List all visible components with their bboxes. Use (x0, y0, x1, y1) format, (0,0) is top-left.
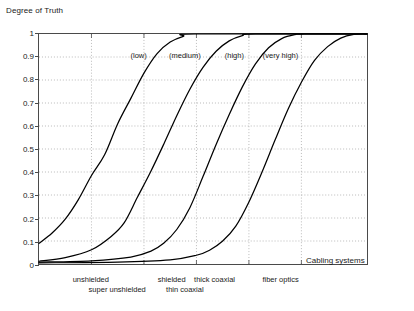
curve-annotation: (low) (131, 51, 147, 60)
y-tick-mark (35, 103, 39, 104)
y-tick-mark (35, 149, 39, 150)
x-axis-title: Cabling systems (306, 256, 365, 265)
curve-annotation: (very high) (263, 51, 298, 60)
y-tick-label: 0.3 (8, 191, 34, 200)
chart-figure: Degree of Truth 00.10.20.30.40.50.60.70.… (0, 0, 414, 311)
curve-annotation: (high) (225, 51, 244, 60)
y-tick-mark (35, 219, 39, 220)
y-tick-label: 0.7 (8, 98, 34, 107)
plot-area (38, 33, 368, 265)
y-tick-mark (35, 195, 39, 196)
y-tick-label: 0.1 (8, 237, 34, 246)
y-tick-label: 0 (8, 261, 34, 270)
x-tick-label: fiber optics (262, 275, 298, 284)
y-tick-mark (35, 265, 39, 266)
y-tick-label: 0.9 (8, 52, 34, 61)
y-axis-title: Degree of Truth (6, 6, 63, 15)
y-tick-mark (35, 126, 39, 127)
curve-medium (39, 34, 367, 261)
y-tick-label: 0.4 (8, 168, 34, 177)
y-tick-mark (35, 56, 39, 57)
curve-annotation: (medium) (169, 51, 201, 60)
x-tick-label: shielded (158, 275, 186, 284)
y-tick-mark (35, 33, 39, 34)
y-tick-mark (35, 242, 39, 243)
x-tick-label: super unshielded (89, 285, 146, 294)
x-tick-label: thin coaxial (166, 285, 204, 294)
x-tick-label: unshielded (73, 275, 109, 284)
y-tick-label: 0.2 (8, 214, 34, 223)
x-tick-label: thick coaxial (194, 275, 235, 284)
y-tick-mark (35, 172, 39, 173)
curves-layer (39, 34, 367, 264)
y-tick-mark (35, 79, 39, 80)
y-tick-label: 1 (8, 29, 34, 38)
curve-low (39, 34, 367, 243)
y-tick-label: 0.5 (8, 145, 34, 154)
y-tick-label: 0.8 (8, 75, 34, 84)
y-tick-label: 0.6 (8, 121, 34, 130)
